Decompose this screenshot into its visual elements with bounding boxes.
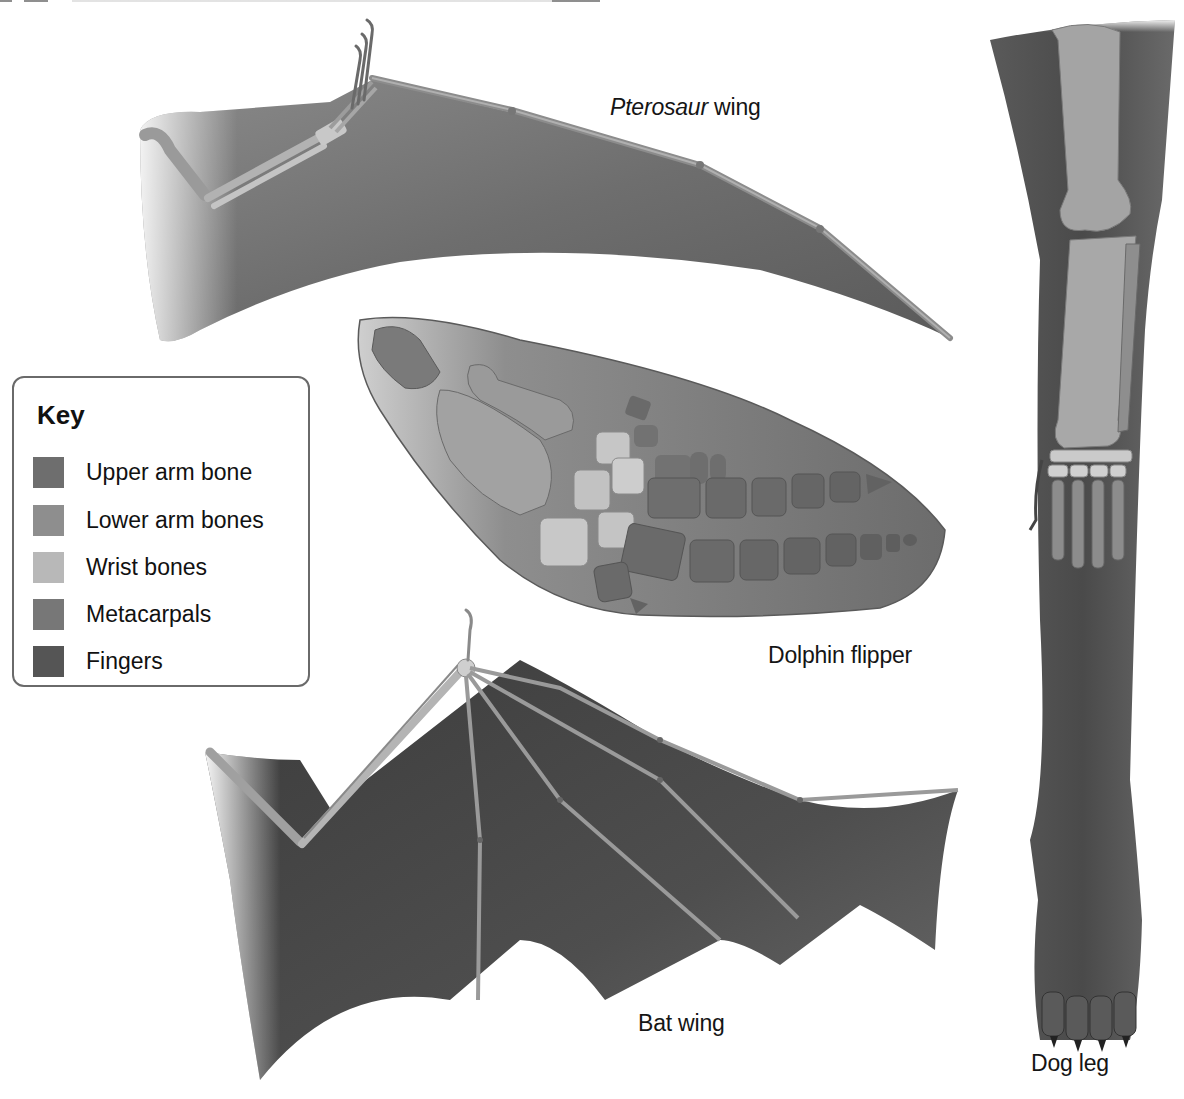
label-dog-leg: Dog leg (1031, 1050, 1109, 1077)
key-item-upper-arm: Upper arm bone (33, 456, 252, 488)
key-legend: Key Upper arm bone Lower arm bones Wrist… (12, 376, 310, 687)
pterosaur-wing (140, 20, 950, 341)
dolphin-flipper (358, 318, 945, 617)
swatch-icon-upper-arm (33, 457, 64, 488)
label-dolphin-flipper: Dolphin flipper (768, 642, 912, 669)
label-bat-wing: Bat wing (638, 1010, 725, 1037)
label-pterosaur-italic: Pterosaur (610, 94, 708, 120)
key-label: Upper arm bone (86, 459, 252, 486)
key-label: Lower arm bones (86, 507, 264, 534)
swatch-icon-fingers (33, 646, 64, 677)
key-title: Key (37, 400, 85, 431)
swatch-icon-lower-arm (33, 505, 64, 536)
key-label: Wrist bones (86, 554, 207, 581)
swatch-icon-wrist (33, 552, 64, 583)
key-label: Metacarpals (86, 601, 211, 628)
label-pterosaur-rest: wing (708, 94, 761, 120)
bat-wing (205, 610, 958, 1080)
key-item-metacarpals: Metacarpals (33, 598, 211, 630)
key-item-fingers: Fingers (33, 645, 163, 677)
key-item-wrist: Wrist bones (33, 551, 207, 583)
dog-leg (990, 20, 1175, 1052)
key-label: Fingers (86, 648, 163, 675)
homology-figure: Pterosaur wing Dolphin flipper Bat wing … (0, 0, 1184, 1099)
key-item-lower-arm: Lower arm bones (33, 504, 264, 536)
label-pterosaur-wing: Pterosaur wing (610, 94, 761, 121)
swatch-icon-metacarpals (33, 599, 64, 630)
